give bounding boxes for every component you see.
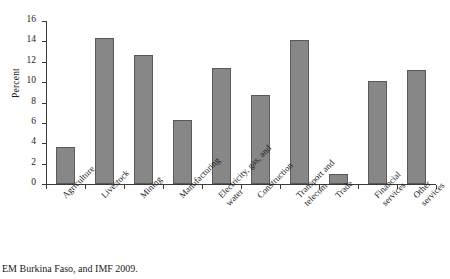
bar bbox=[56, 147, 75, 184]
plot-area: 0246810121416 AgricultureLivestockMining… bbox=[46, 21, 436, 185]
y-tick-5: 10 bbox=[42, 82, 46, 83]
bar bbox=[134, 55, 153, 184]
y-tick-4: 8 bbox=[42, 103, 46, 104]
bar bbox=[95, 38, 114, 184]
x-tick bbox=[202, 185, 203, 189]
y-tick-label: 8 bbox=[31, 96, 36, 106]
y-tick-label: 12 bbox=[27, 55, 37, 65]
y-tick-1: 2 bbox=[42, 164, 46, 165]
x-tick bbox=[358, 185, 359, 189]
y-tick-label: 0 bbox=[31, 177, 36, 187]
y-tick-label: 4 bbox=[31, 136, 36, 146]
y-axis-title: Percent bbox=[11, 43, 21, 123]
bar bbox=[368, 81, 387, 184]
x-tick bbox=[85, 185, 86, 189]
y-tick-label: 6 bbox=[31, 116, 36, 126]
bar bbox=[290, 40, 309, 184]
x-tick bbox=[46, 185, 47, 189]
y-tick-label: 10 bbox=[27, 75, 37, 85]
y-tick-3: 6 bbox=[42, 123, 46, 124]
y-tick-label: 16 bbox=[27, 14, 37, 24]
y-tick-7: 14 bbox=[42, 41, 46, 42]
y-tick-6: 12 bbox=[42, 62, 46, 63]
y-tick-label: 14 bbox=[27, 34, 37, 44]
y-tick-label: 2 bbox=[31, 157, 36, 167]
x-tick bbox=[280, 185, 281, 189]
chart-figure: Percent 0246810121416 AgricultureLivesto… bbox=[0, 0, 450, 279]
bar bbox=[173, 120, 192, 184]
y-tick-8: 16 bbox=[42, 21, 46, 22]
x-tick bbox=[124, 185, 125, 189]
y-tick-2: 4 bbox=[42, 143, 46, 144]
y-axis-line bbox=[46, 21, 47, 185]
source-note: EM Burkina Faso, and IMF 2009. bbox=[2, 263, 138, 274]
x-tick bbox=[163, 185, 164, 189]
